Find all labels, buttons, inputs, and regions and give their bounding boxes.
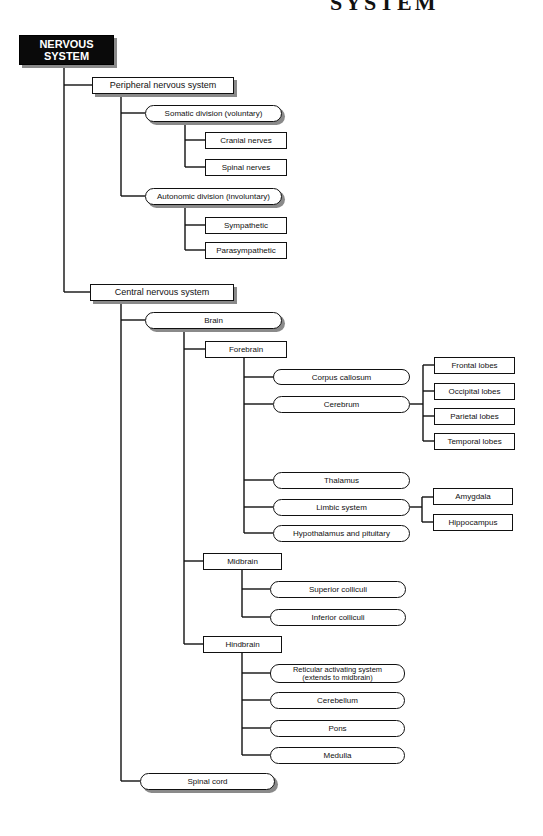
node-spinal-nerves: Spinal nerves [205,159,287,176]
node-pons: Pons [270,720,405,737]
node-frontal-lobes: Frontal lobes [434,357,515,374]
node-thalamus: Thalamus [273,472,410,489]
node-forebrain: Forebrain [205,341,287,358]
node-limbic-system: Limbic system [273,499,410,516]
node-spinal-cord: Spinal cord [140,773,275,790]
root-label-line1: NERVOUS [39,38,93,50]
node-cerebellum: Cerebellum [270,692,405,709]
node-superior-colliculi: Superior colliculi [270,581,406,598]
node-midbrain: Midbrain [203,553,282,570]
node-cranial-nerves: Cranial nerves [205,132,287,149]
node-amygdala: Amygdala [433,488,513,505]
node-occipital-lobes: Occipital lobes [434,383,515,400]
root-label-line2: SYSTEM [44,50,89,62]
node-parasympathetic: Parasympathetic [205,242,287,259]
node-hindbrain: Hindbrain [203,636,282,653]
node-cerebrum: Cerebrum [273,396,410,413]
node-somatic-division: Somatic division (voluntary) [145,105,282,122]
node-parietal-lobes: Parietal lobes [434,408,515,425]
node-sympathetic: Sympathetic [205,217,287,234]
node-brain: Brain [145,312,282,329]
node-hypothalamus-pituitary: Hypothalamus and pituitary [273,525,410,542]
node-hippocampus: Hippocampus [433,514,513,531]
reticular-label-line2: (extends to midbrain) [302,674,372,682]
node-reticular-activating-system: Reticular activating system (extends to … [270,664,405,683]
node-central-nervous-system: Central nervous system [90,284,234,301]
node-corpus-callosum: Corpus callosum [273,369,410,385]
node-medulla: Medulla [270,747,405,764]
node-inferior-colliculi: Inferior colliculi [270,609,406,626]
node-autonomic-division: Autonomic division (involuntary) [145,188,282,205]
root-nervous-system: NERVOUS SYSTEM [19,35,114,65]
node-peripheral-nervous-system: Peripheral nervous system [92,77,234,94]
node-temporal-lobes: Temporal lobes [434,433,515,450]
